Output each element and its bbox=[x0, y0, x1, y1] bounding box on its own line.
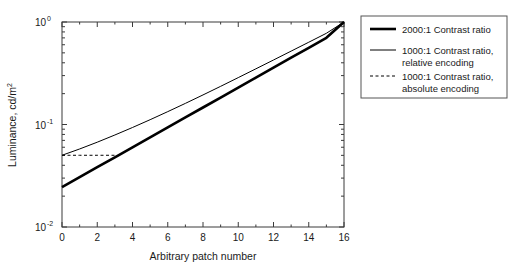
y-axis-title-exponent: 2 bbox=[6, 83, 13, 87]
y-tick-label-mantissa: 10 bbox=[35, 17, 47, 28]
x-axis-title: Arbitrary patch number bbox=[150, 250, 257, 262]
y-tick-label-exponent: 0 bbox=[47, 15, 51, 22]
x-tick-label: 2 bbox=[94, 232, 100, 243]
x-tick-label: 16 bbox=[338, 232, 350, 243]
y-tick-label-mantissa: 10 bbox=[35, 120, 47, 131]
legend-label: 2000:1 Contrast ratio bbox=[402, 24, 491, 35]
legend-label: 1000:1 Contrast ratio, bbox=[402, 71, 493, 82]
y-tick-label-exponent: -1 bbox=[47, 118, 53, 125]
x-tick-label: 10 bbox=[233, 232, 245, 243]
legend-label-line2: relative encoding bbox=[402, 57, 474, 68]
y-tick-label-mantissa: 10 bbox=[35, 222, 47, 233]
y-axis-title-group: Luminance, cd/m2 bbox=[6, 83, 18, 167]
x-tick-label: 0 bbox=[59, 232, 65, 243]
luminance-vs-patch-number-chart: 0246810121416 10-210-1100 Arbitrary patc… bbox=[0, 0, 512, 267]
x-tick-label: 4 bbox=[130, 232, 136, 243]
y-tick-label-exponent: -2 bbox=[47, 220, 53, 227]
x-tick-label: 6 bbox=[165, 232, 171, 243]
x-tick-label: 8 bbox=[200, 232, 206, 243]
legend: 2000:1 Contrast ratio1000:1 Contrast rat… bbox=[361, 16, 507, 98]
legend-label: 1000:1 Contrast ratio, bbox=[402, 45, 493, 56]
x-tick-label: 12 bbox=[268, 232, 280, 243]
y-axis-title-text: Luminance, cd/m bbox=[6, 87, 18, 167]
legend-label-line2: absolute encoding bbox=[402, 83, 479, 94]
x-tick-label: 14 bbox=[303, 232, 315, 243]
y-axis-title: Luminance, cd/m2 bbox=[6, 83, 18, 167]
